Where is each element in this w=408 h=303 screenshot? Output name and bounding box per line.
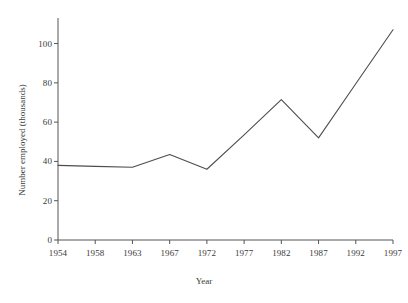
x-tick-label: 1987 — [309, 248, 327, 258]
x-tick-label: 1977 — [235, 248, 253, 258]
line-chart-figure: 020406080100 195419581963196719721977198… — [0, 0, 408, 303]
y-axis-label: Number employed (thousands) — [17, 60, 27, 220]
x-axis-label: Year — [0, 276, 408, 286]
x-tick-label: 1997 — [384, 248, 402, 258]
x-tick-label: 1963 — [123, 248, 141, 258]
y-tick-label: 100 — [20, 39, 52, 49]
x-tick-label: 1992 — [347, 248, 365, 258]
x-tick-label: 1967 — [160, 248, 178, 258]
x-tick-label: 1954 — [49, 248, 67, 258]
x-tick-label: 1972 — [198, 248, 216, 258]
data-series-line — [58, 30, 393, 169]
y-axis-ticks — [54, 44, 58, 240]
y-tick-label: 0 — [20, 235, 52, 245]
x-tick-label: 1982 — [272, 248, 290, 258]
x-axis-ticks — [58, 240, 393, 244]
x-tick-label: 1958 — [86, 248, 104, 258]
